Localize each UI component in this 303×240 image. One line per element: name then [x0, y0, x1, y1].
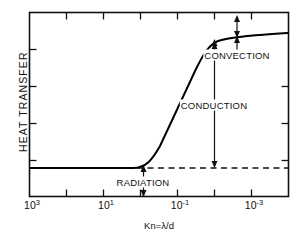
x-tick-mantissa: 10 [245, 199, 257, 211]
x-tick-label-1e3: 103 [24, 199, 40, 211]
right-axis-ticks [282, 87, 289, 161]
x-axis-ticks [67, 190, 252, 197]
top-axis-ticks [67, 13, 252, 20]
x-tick-mantissa: 10 [98, 199, 110, 211]
x-axis-title: Kn=λ/d [144, 220, 174, 231]
convection-upper-arrow [234, 15, 240, 38]
annotation-label-radiation: RADIATION [116, 177, 171, 188]
heat-transfer-figure: CONVECTION CONDUCTION RADIATION 103 101 … [0, 0, 303, 240]
y-axis-ticks [30, 50, 37, 161]
y-axis-title: HEAT TRANSFER [17, 51, 29, 152]
x-tick-exponent: 3 [36, 198, 40, 207]
x-tick-exponent: -3 [257, 198, 264, 207]
x-tick-exponent: -1 [183, 198, 190, 207]
annotation-label-conduction: CONDUCTION [180, 100, 248, 111]
x-tick-exponent: 1 [110, 198, 114, 207]
x-tick-label-1e1: 101 [98, 199, 114, 211]
x-tick-label-1e-1: 10-1 [171, 199, 189, 211]
annotation-label-convection: CONVECTION [203, 50, 270, 61]
x-tick-mantissa: 10 [171, 199, 183, 211]
x-tick-label-1e-3: 10-3 [245, 199, 263, 211]
x-tick-mantissa: 10 [24, 199, 36, 211]
